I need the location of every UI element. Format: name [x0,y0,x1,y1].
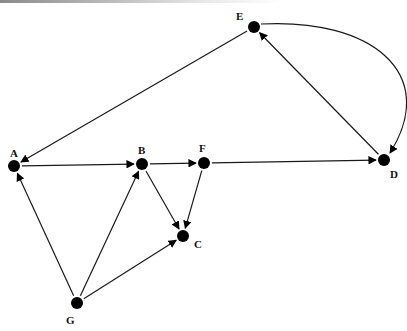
node-label-g: G [66,314,75,326]
node-c [177,230,189,242]
node-f [198,157,210,169]
node-e [248,21,260,33]
edge-b-to-c [146,171,179,229]
edge-e-to-a [21,31,247,162]
edge-a-to-b [22,164,134,166]
node-d [378,154,390,166]
node-label-a: A [10,147,18,159]
node-label-b: B [138,144,146,156]
node-a [8,160,20,172]
node-label-e: E [236,10,243,22]
edge-b-to-f [150,163,196,164]
edges-layer [17,24,406,299]
node-b [136,158,148,170]
edge-g-to-c [84,240,176,298]
node-label-c: C [194,238,202,250]
node-g [71,297,83,309]
edge-e-to-d [261,24,407,153]
edge-d-to-e [260,33,379,155]
node-label-d: D [390,168,398,180]
edge-g-to-b [80,171,138,296]
node-label-f: F [199,142,206,154]
directed-graph: ABCDEFG [0,0,407,331]
edge-f-to-c [185,171,202,229]
edge-g-to-a [17,173,73,295]
edge-f-to-d [212,160,376,163]
